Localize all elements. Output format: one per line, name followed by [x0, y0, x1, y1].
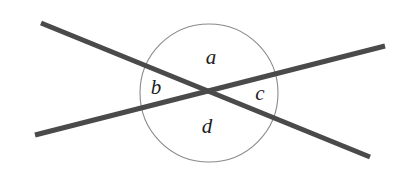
angle-label-b: b — [151, 75, 162, 99]
geometry-diagram: a b c d — [0, 0, 405, 181]
angle-label-c: c — [255, 81, 265, 105]
figure-canvas: a b c d — [0, 0, 405, 181]
angle-label-d: d — [202, 114, 213, 138]
angle-label-a: a — [206, 45, 217, 69]
